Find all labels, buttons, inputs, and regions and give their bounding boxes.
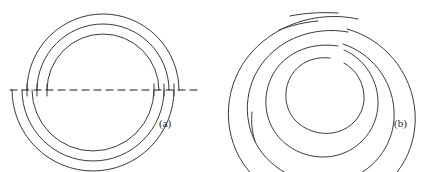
upper-arc-outer: [27, 14, 179, 90]
spiral-outer-terminus: [290, 13, 338, 16]
spiral-turn-2: [266, 45, 378, 157]
figure-canvas: #fig-a-group path, #fig-b-group path { s…: [0, 0, 434, 172]
figure-b-group: [228, 13, 415, 172]
spiral-break-stroke-left: [252, 112, 255, 141]
lower-arc-inner: [32, 90, 154, 151]
spiral-turn-4: [228, 16, 415, 172]
figure-a-upper-arcs: [27, 14, 179, 90]
lower-arc-outer: [12, 90, 174, 171]
figure-a-lower-arcs: [12, 90, 174, 171]
spiral-turn-3: [247, 30, 394, 172]
figure-a-caption-label: (a): [159, 117, 171, 129]
figure-b-caption-label: (b): [394, 117, 407, 129]
upper-arc-inner: [47, 34, 159, 90]
spiral-turn-1: [286, 58, 364, 134]
figure-a-group: [10, 14, 201, 171]
figure-panel: #fig-a-group path, #fig-b-group path { s…: [0, 0, 434, 172]
